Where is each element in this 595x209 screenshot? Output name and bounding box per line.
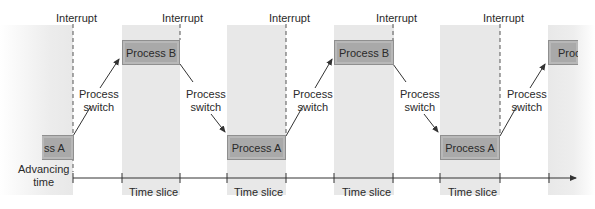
process-label: ss A: [44, 142, 65, 154]
process-a-2: Process A: [440, 135, 500, 160]
process-label: Proc: [558, 47, 578, 59]
process-label: Process A: [232, 142, 282, 154]
time-slice-label-1: Time slice: [129, 186, 178, 198]
time-slice-label-3: Time slice: [342, 186, 391, 198]
process-switch-label-3: Process switch: [293, 88, 333, 114]
interrupt-label-5: Interrupt: [483, 12, 524, 24]
process-label: Process B: [126, 47, 176, 59]
process-b-partial-right: Proc: [548, 40, 578, 65]
process-b-1: Process B: [122, 40, 180, 65]
time-slice-label-2: Time slice: [234, 186, 283, 198]
process-b-2: Process B: [334, 40, 394, 65]
process-a-partial-left: ss A: [42, 135, 74, 160]
interrupt-label-3: Interrupt: [269, 12, 310, 24]
process-label: Process B: [339, 47, 389, 59]
process-a-1: Process A: [227, 135, 286, 160]
axis-label: Advancing time: [18, 163, 69, 189]
interrupt-label-2: Interrupt: [162, 12, 203, 24]
process-switch-label-5: Process switch: [507, 88, 547, 114]
process-switch-label-2: Process switch: [186, 88, 226, 114]
interrupt-label-4: Interrupt: [376, 12, 417, 24]
time-slicing-diagram: Interrupt Interrupt Interrupt Interrupt …: [0, 0, 595, 209]
process-switch-label-1: Process switch: [79, 88, 119, 114]
time-slice-label-4: Time slice: [448, 186, 497, 198]
process-switch-label-4: Process switch: [400, 88, 440, 114]
process-label: Process A: [445, 142, 495, 154]
interrupt-label-1: Interrupt: [56, 12, 97, 24]
